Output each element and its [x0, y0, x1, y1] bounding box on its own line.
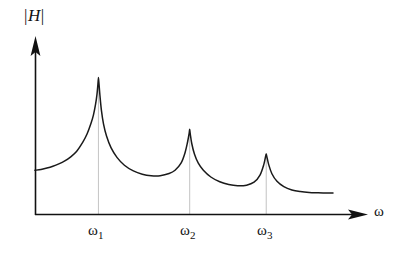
x-axis — [35, 209, 368, 219]
x-tick-omega-2-subscript: 2 — [190, 229, 196, 241]
x-tick-omega-3-base: ω — [257, 222, 267, 238]
y-axis — [31, 36, 41, 215]
y-axis-label: |H| — [24, 6, 45, 26]
x-tick-label-omega-2: ω2 — [180, 222, 195, 239]
x-tick-omega-3-subscript: 3 — [267, 229, 273, 241]
magnitude-response-figure: |H| ω ω1 ω2 ω3 — [0, 0, 410, 267]
x-tick-omega-2-base: ω — [180, 222, 190, 238]
plot-canvas — [0, 0, 410, 267]
droplines-group — [98, 78, 266, 215]
x-tick-omega-1-subscript: 1 — [98, 229, 104, 241]
y-axis-label-symbol: H — [28, 6, 41, 25]
y-axis-label-bar-right: | — [41, 6, 45, 25]
x-axis-label: ω — [374, 203, 384, 220]
x-tick-label-omega-1: ω1 — [88, 222, 103, 239]
x-tick-label-omega-3: ω3 — [257, 222, 272, 239]
x-tick-omega-1-base: ω — [88, 222, 98, 238]
magnitude-response-curve — [35, 78, 333, 193]
